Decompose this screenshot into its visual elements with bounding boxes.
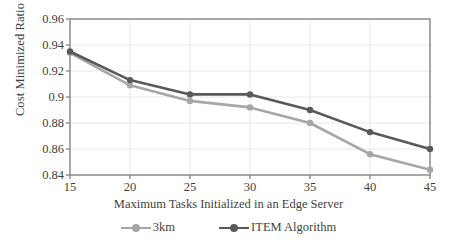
y-axis-tick-label: 0.9 [48,91,64,104]
x-axis-tick-label: 25 [170,180,210,195]
x-axis-tick-label: 40 [350,180,390,195]
y-axis-tick-label: 0.86 [42,143,64,156]
legend-item-item-algorithm[interactable]: ITEM Algorithm [219,220,336,235]
legend-label-3km: 3km [153,220,175,235]
y-axis-tick-label: 0.96 [42,13,64,26]
x-axis-tick-label: 30 [230,180,270,195]
data-point [307,120,313,126]
x-axis-title: Maximum Tasks Initialized in an Edge Ser… [0,197,457,212]
y-axis-tick-label: 0.88 [42,117,64,130]
data-point [247,91,253,97]
data-point [67,48,73,54]
data-point [427,167,433,173]
data-point [127,77,133,83]
data-point [187,91,193,97]
x-axis-tick-label: 35 [290,180,330,195]
x-axis-tick-label: 45 [410,180,450,195]
data-point [187,98,193,104]
y-axis-tick-label: 0.92 [42,65,64,78]
line-chart: Cost Minimized Ratio 0.960.940.920.90.88… [0,0,457,246]
legend-item-3km[interactable]: 3km [121,220,175,235]
legend-marker-item-algorithm [219,222,249,234]
data-point [307,107,313,113]
data-point [427,146,433,152]
data-point [367,129,373,135]
y-axis-tick-label: 0.94 [42,39,64,52]
legend-label-item-algorithm: ITEM Algorithm [251,220,336,235]
x-axis-tick-label: 15 [50,180,90,195]
data-point [247,104,253,110]
x-axis-tick-label: 20 [110,180,150,195]
chart-legend: 3km ITEM Algorithm [0,220,457,235]
legend-marker-3km [121,222,151,234]
data-point [367,151,373,157]
